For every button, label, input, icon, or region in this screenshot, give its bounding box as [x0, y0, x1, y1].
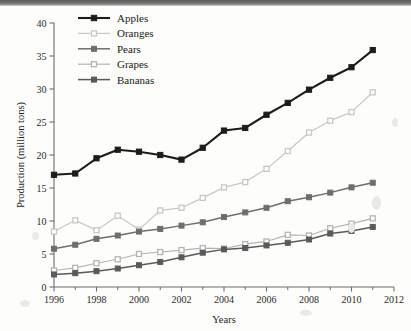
data-point-marker	[264, 205, 269, 210]
data-point-marker	[179, 205, 184, 210]
data-point-marker	[349, 110, 354, 115]
x-axis-tick-label: 2004	[214, 294, 234, 305]
y-axis-tick-label: 35	[37, 51, 47, 62]
series-layer	[51, 47, 375, 277]
data-point-marker	[200, 145, 205, 150]
data-point-marker	[306, 87, 311, 92]
data-point-marker	[370, 90, 375, 95]
data-point-marker	[91, 15, 96, 20]
data-point-marker	[52, 229, 57, 234]
data-point-marker	[137, 252, 142, 257]
legend-item-pears[interactable]: Pears	[78, 43, 141, 55]
data-point-marker	[158, 226, 163, 231]
data-point-marker	[94, 156, 99, 161]
data-point-marker	[264, 112, 269, 117]
data-point-marker	[179, 248, 184, 253]
data-point-marker	[92, 46, 97, 51]
legend-item-oranges[interactable]: Oranges	[78, 27, 154, 39]
data-point-marker	[328, 118, 333, 123]
data-point-marker	[285, 199, 290, 204]
data-point-marker	[328, 190, 333, 195]
y-axis-tick-label: 25	[37, 117, 47, 128]
data-point-marker	[349, 221, 354, 226]
data-point-marker	[243, 210, 248, 215]
y-axis-tick-label: 15	[37, 183, 47, 194]
data-point-marker	[243, 246, 248, 251]
y-axis-tick-label: 30	[37, 84, 47, 95]
data-point-marker	[307, 195, 312, 200]
data-point-marker	[73, 242, 78, 247]
data-point-marker	[92, 77, 97, 82]
data-point-marker	[115, 266, 120, 271]
data-point-marker	[51, 172, 56, 177]
data-point-marker	[179, 223, 184, 228]
data-point-marker	[285, 240, 290, 245]
data-point-marker	[285, 232, 290, 237]
x-axis-tick-label: 2012	[384, 294, 404, 305]
x-axis-tick-label: 2000	[129, 294, 149, 305]
data-point-marker	[370, 224, 375, 229]
data-point-marker	[73, 218, 78, 223]
axis-label-layer: YearsProduction (million tons)	[15, 101, 236, 325]
data-point-marker	[285, 100, 290, 105]
data-point-marker	[349, 228, 354, 233]
data-point-marker	[179, 157, 184, 162]
y-axis-tick-label: 0	[42, 282, 47, 293]
data-point-marker	[370, 216, 375, 221]
legend-item-grapes[interactable]: Grapes	[78, 58, 148, 70]
legend-label: Bananas	[117, 74, 154, 86]
data-point-marker	[349, 65, 354, 70]
data-point-marker	[94, 228, 99, 233]
line-chart-canvas: 0510152025303540199619982000200220042006…	[0, 0, 411, 331]
series-oranges	[52, 90, 376, 234]
x-axis-tick-label: 2006	[257, 294, 277, 305]
data-point-marker	[73, 171, 78, 176]
data-point-marker	[221, 128, 226, 133]
series-apples	[51, 47, 375, 177]
data-point-marker	[222, 185, 227, 190]
x-axis-tick-label: 2010	[342, 294, 362, 305]
data-point-marker	[222, 215, 227, 220]
data-point-marker	[200, 195, 205, 200]
data-point-marker	[92, 31, 97, 36]
data-point-marker	[307, 130, 312, 135]
data-point-marker	[243, 180, 248, 185]
legend-item-apples[interactable]: Apples	[78, 12, 148, 24]
y-axis-tick-label: 40	[37, 18, 47, 29]
data-point-marker	[158, 152, 163, 157]
data-point-marker	[243, 125, 248, 130]
series-bananas	[52, 224, 376, 277]
x-axis-title: Years	[212, 314, 235, 325]
data-point-marker	[349, 185, 354, 190]
legend-item-bananas[interactable]: Bananas	[78, 74, 154, 86]
data-point-marker	[264, 166, 269, 171]
data-point-marker	[328, 75, 333, 80]
data-point-marker	[52, 272, 57, 277]
x-axis-tick-label: 1998	[87, 294, 107, 305]
data-point-marker	[200, 250, 205, 255]
data-point-marker	[52, 246, 57, 251]
x-axis-tick-label: 2008	[299, 294, 319, 305]
data-point-marker	[200, 220, 205, 225]
legend-label: Grapes	[117, 58, 148, 70]
series-grapes	[52, 216, 376, 273]
data-point-marker	[264, 243, 269, 248]
data-point-marker	[94, 269, 99, 274]
data-point-marker	[115, 233, 120, 238]
series-pears	[52, 180, 376, 251]
data-point-marker	[370, 180, 375, 185]
data-point-marker	[179, 255, 184, 260]
data-point-marker	[285, 149, 290, 154]
data-point-marker	[158, 250, 163, 255]
data-point-marker	[115, 213, 120, 218]
data-point-marker	[94, 236, 99, 241]
x-axis-tick-label: 1996	[44, 294, 64, 305]
data-point-marker	[307, 237, 312, 242]
data-point-marker	[158, 259, 163, 264]
legend-label: Oranges	[117, 27, 154, 39]
legend-label: Pears	[117, 43, 141, 55]
data-point-marker	[222, 247, 227, 252]
data-point-marker	[73, 265, 78, 270]
data-point-marker	[137, 229, 142, 234]
series-line	[54, 50, 373, 175]
